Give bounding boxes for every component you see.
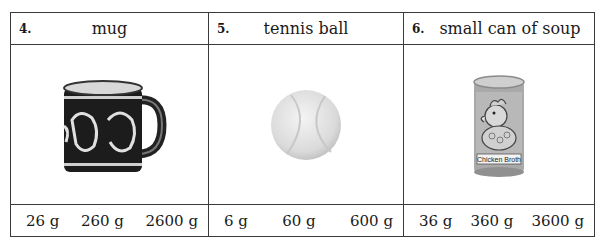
mass-options: 6 g 60 g 600 g bbox=[209, 205, 403, 236]
mass-options: 36 g 360 g 3600 g bbox=[404, 205, 594, 236]
item-column-mug: 4. mug 26 g 260 g 2600 g bbox=[11, 13, 208, 236]
mass-option[interactable]: 36 g bbox=[419, 212, 452, 230]
item-column-soup-can: 6. small can of soup Chicken Broth bbox=[403, 13, 594, 236]
mass-option[interactable]: 600 g bbox=[350, 212, 393, 230]
item-name: tennis ball bbox=[209, 19, 403, 38]
item-header: 5. tennis ball bbox=[209, 13, 403, 45]
item-number: 6. bbox=[412, 22, 425, 36]
mug-icon bbox=[50, 70, 170, 180]
mug-image bbox=[11, 45, 208, 205]
item-header: 6. small can of soup bbox=[404, 13, 594, 45]
mass-options: 26 g 260 g 2600 g bbox=[11, 205, 208, 236]
soup-can-image: Chicken Broth bbox=[404, 45, 594, 205]
tennis-ball-icon bbox=[261, 80, 351, 170]
item-number: 4. bbox=[19, 22, 32, 36]
mass-option[interactable]: 6 g bbox=[224, 212, 248, 230]
item-header: 4. mug bbox=[11, 13, 208, 45]
mass-option[interactable]: 2600 g bbox=[145, 212, 198, 230]
tennis-ball-image bbox=[209, 45, 403, 205]
item-name: mug bbox=[11, 19, 208, 38]
can-label: Chicken Broth bbox=[477, 156, 521, 163]
mass-option[interactable]: 26 g bbox=[26, 212, 59, 230]
mass-option[interactable]: 3600 g bbox=[531, 212, 584, 230]
item-name: small can of soup bbox=[404, 19, 594, 38]
mass-option[interactable]: 360 g bbox=[470, 212, 513, 230]
item-number: 5. bbox=[217, 22, 230, 36]
item-column-tennis-ball: 5. tennis ball 6 g 60 g 600 g bbox=[208, 13, 403, 236]
mass-estimation-table: 4. mug 26 g 260 g 2600 g bbox=[10, 12, 595, 237]
soup-can-icon: Chicken Broth bbox=[464, 70, 534, 180]
mass-option[interactable]: 60 g bbox=[282, 212, 315, 230]
mass-option[interactable]: 260 g bbox=[81, 212, 124, 230]
